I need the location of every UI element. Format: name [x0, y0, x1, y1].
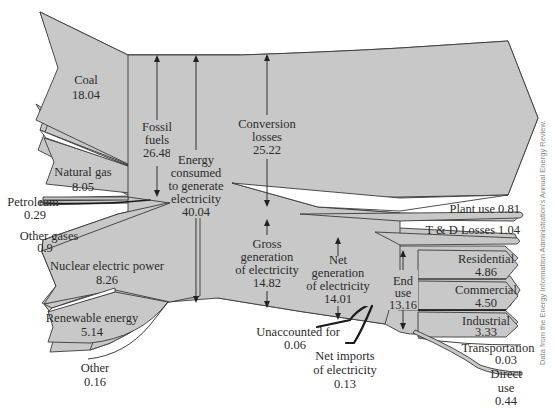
direct-use-label-1: Direct — [490, 367, 522, 381]
nuclear-value: 8.26 — [96, 273, 118, 287]
fossil-fuels-label: Fossil fuels 26.48 — [141, 120, 173, 166]
svg-text:Fossil: Fossil — [142, 120, 172, 134]
coal-label: Coal — [74, 73, 98, 87]
residential-value: 4.86 — [475, 265, 497, 279]
net-imports-value: 0.13 — [334, 377, 356, 391]
plant-use-label: Plant use 0.81 — [450, 202, 520, 216]
svg-text:fuels: fuels — [145, 133, 169, 147]
svg-text:14.82: 14.82 — [253, 276, 281, 290]
svg-text:consumed: consumed — [171, 166, 222, 180]
gross-generation-label: Gross generation of electricity 14.82 — [235, 235, 300, 291]
renewable-value: 5.14 — [81, 325, 104, 339]
other-gases-value: 0.9 — [37, 241, 53, 255]
industrial-value: 3.33 — [475, 325, 497, 339]
svg-text:13.16: 13.16 — [389, 298, 417, 312]
net-generation-label: Net generation of electricity 14.01 — [306, 253, 370, 306]
td-losses-label: T & D Losses 1.04 — [425, 223, 520, 237]
electricity-flow-sankey: Coal 18.04 Natural gas 8.05 Petroleum 0.… — [0, 0, 555, 409]
coal-value: 18.04 — [72, 88, 101, 102]
commercial-label: Commercial — [455, 283, 517, 297]
svg-text:Net: Net — [329, 253, 348, 267]
svg-text:losses: losses — [252, 130, 282, 144]
svg-text:electricity: electricity — [171, 192, 222, 206]
other-label: Other — [81, 361, 110, 375]
natural-gas-value: 8.05 — [72, 180, 94, 194]
net-imports-label-1: Net imports — [315, 349, 375, 363]
nuclear-label: Nuclear electric power — [50, 259, 165, 273]
svg-text:25.22: 25.22 — [253, 143, 281, 157]
unaccounted-label: Unaccounted for — [256, 325, 340, 339]
svg-text:generation: generation — [241, 250, 295, 264]
svg-text:Conversion: Conversion — [238, 117, 296, 131]
petroleum-label: Petroleum — [7, 195, 59, 209]
end-use-label: End use 13.16 — [388, 270, 418, 312]
net-imports-label-2: of electricity — [313, 363, 377, 377]
svg-text:of electricity: of electricity — [235, 263, 299, 277]
energy-consumed-label: Energy consumed to generate electricity … — [168, 150, 224, 219]
other-value: 0.16 — [84, 375, 106, 389]
svg-text:of electricity: of electricity — [306, 279, 370, 293]
svg-text:Energy: Energy — [178, 153, 215, 167]
svg-text:26.48: 26.48 — [143, 146, 171, 160]
svg-text:40.04: 40.04 — [182, 205, 211, 219]
direct-use-value: 0.44 — [495, 394, 518, 408]
source-credit: Data from the Energy Information Adminis… — [538, 121, 547, 365]
renewable-label: Renewable energy — [46, 311, 139, 325]
commercial-value: 4.50 — [475, 296, 497, 310]
natural-gas-label: Natural gas — [54, 165, 111, 179]
conversion-losses-label: Conversion losses 25.22 — [238, 115, 296, 159]
petroleum-value: 0.29 — [24, 208, 46, 222]
svg-text:Gross: Gross — [252, 237, 281, 251]
svg-text:14.01: 14.01 — [324, 292, 352, 306]
unaccounted-value: 0.06 — [284, 338, 306, 352]
svg-text:to generate: to generate — [168, 179, 224, 193]
svg-text:generation: generation — [312, 266, 366, 280]
residential-label: Residential — [458, 252, 515, 266]
transportation-value: 0.03 — [495, 353, 517, 367]
direct-use-label-2: use — [498, 381, 515, 395]
